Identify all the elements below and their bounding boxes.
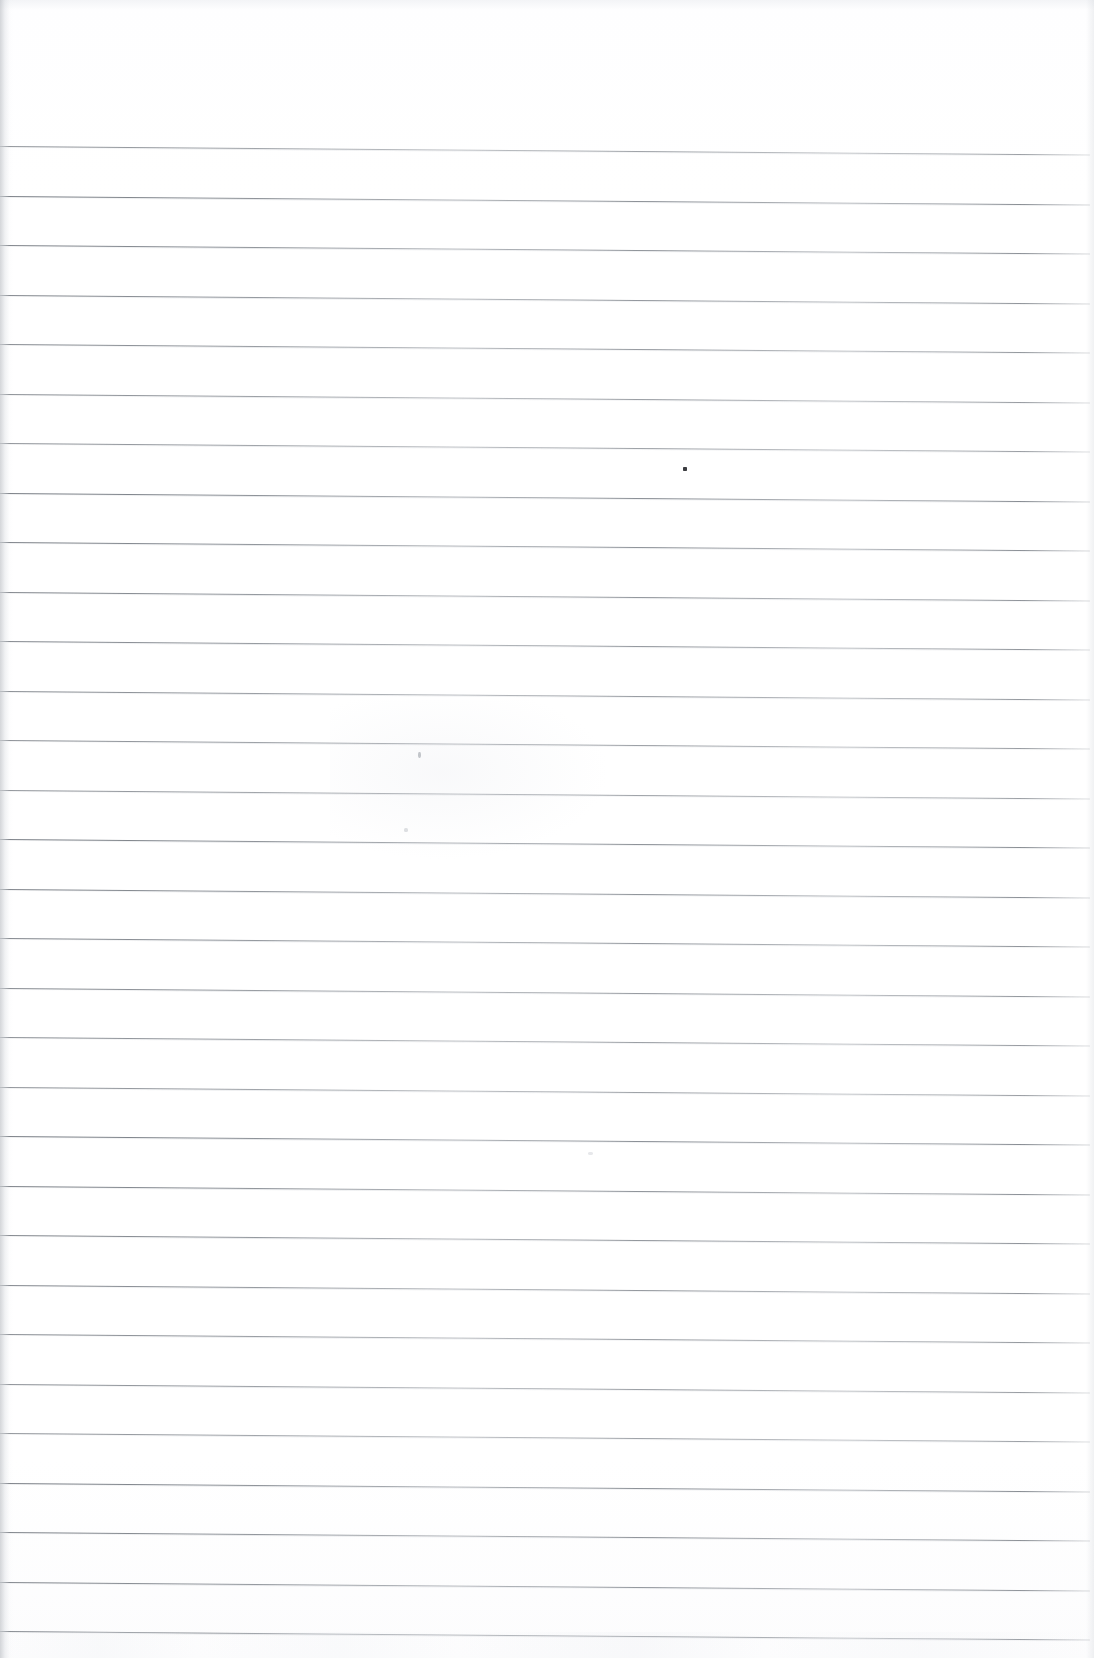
page-right-edge-shadow <box>1086 0 1094 1658</box>
scanned-page <box>0 0 1094 1658</box>
top-edge-shadow <box>0 0 1094 10</box>
page-left-edge-shadow <box>0 0 13 1658</box>
writing-area <box>14 140 1084 1640</box>
